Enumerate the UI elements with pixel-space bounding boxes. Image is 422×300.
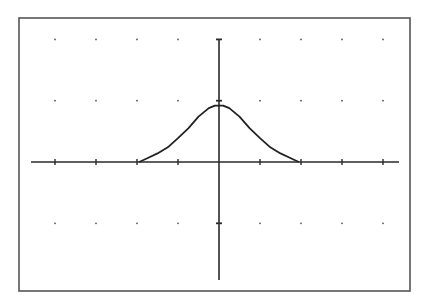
- grid-dot: [259, 39, 261, 41]
- grid-dot: [54, 100, 56, 102]
- grid-dot: [300, 100, 302, 102]
- grid-dot: [177, 39, 179, 41]
- grid-dot: [95, 39, 97, 41]
- grid-dot: [300, 222, 302, 224]
- grid-dot: [341, 222, 343, 224]
- grid-dot: [95, 222, 97, 224]
- grid-dot: [341, 100, 343, 102]
- grid-dot: [136, 222, 138, 224]
- grid-dot: [177, 222, 179, 224]
- grid-dot: [95, 100, 97, 102]
- grid-dot: [382, 222, 384, 224]
- plot-frame: [19, 18, 410, 291]
- grid-dot: [382, 100, 384, 102]
- grid-dot: [54, 39, 56, 41]
- grid-dot: [136, 39, 138, 41]
- graph-plot: [0, 0, 422, 300]
- grid-dot: [259, 100, 261, 102]
- grid-dot: [177, 100, 179, 102]
- grid-dot: [341, 39, 343, 41]
- grid-dot: [54, 222, 56, 224]
- grid-dot: [259, 222, 261, 224]
- grid-dot: [300, 39, 302, 41]
- grid-dot: [136, 100, 138, 102]
- grid-dot: [382, 39, 384, 41]
